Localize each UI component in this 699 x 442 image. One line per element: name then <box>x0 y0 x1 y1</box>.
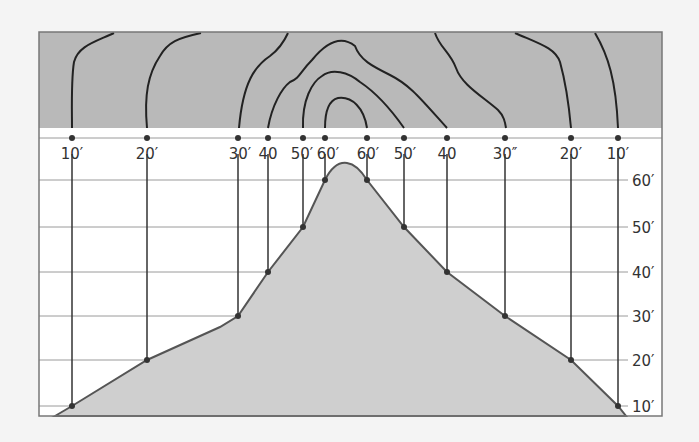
contour-label: 40 <box>258 145 277 163</box>
contour-label: 40 <box>437 145 456 163</box>
elevation-label: 50′ <box>632 219 655 237</box>
elevation-labels: 60′ 50′ 40′ 30′ 20′ 10′ <box>629 170 661 416</box>
elevation-label: 10′ <box>632 398 655 416</box>
contour-label: 10′ <box>607 145 630 163</box>
contour-label: 60′ <box>317 145 340 163</box>
contour-label: 50′ <box>394 145 417 163</box>
elevation-label: 40′ <box>632 264 655 282</box>
contour-label: 20′ <box>560 145 583 163</box>
contour-profile-diagram: 10′ 20′ 30′ 40 50′ 60′ 60′ 50′ 40 30″ 20… <box>0 0 699 442</box>
contour-label: 20′ <box>136 145 159 163</box>
contour-label: 10′ <box>61 145 84 163</box>
elevation-label: 60′ <box>632 172 655 190</box>
contour-label: 30′ <box>229 145 252 163</box>
contour-label: 30″ <box>493 145 518 163</box>
elevation-label: 30′ <box>632 308 655 326</box>
contour-label: 50′ <box>291 145 314 163</box>
elevation-label: 20′ <box>632 352 655 370</box>
contour-label: 60′ <box>357 145 380 163</box>
